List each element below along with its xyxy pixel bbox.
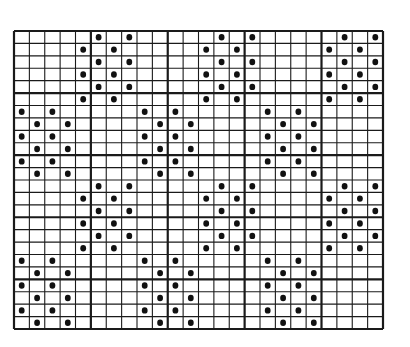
dot-marker bbox=[372, 208, 378, 214]
dot-marker bbox=[249, 208, 255, 214]
dot-marker bbox=[173, 282, 179, 288]
dot-marker bbox=[19, 133, 25, 139]
dot-marker bbox=[126, 84, 132, 90]
dot-marker bbox=[326, 220, 332, 226]
dot-marker bbox=[357, 245, 363, 251]
dot-marker bbox=[311, 171, 317, 177]
dot-marker bbox=[265, 109, 271, 115]
dot-marker bbox=[126, 183, 132, 189]
dot-marker bbox=[372, 233, 378, 239]
dot-marker bbox=[111, 195, 117, 201]
dot-marker bbox=[326, 71, 332, 77]
dot-marker bbox=[311, 320, 317, 326]
dot-marker bbox=[296, 158, 302, 164]
dot-marker bbox=[188, 270, 194, 276]
dot-marker bbox=[19, 158, 25, 164]
dot-marker bbox=[203, 220, 209, 226]
dot-marker bbox=[50, 307, 56, 313]
dot-marker bbox=[50, 109, 56, 115]
dot-marker bbox=[96, 59, 102, 65]
dot-marker bbox=[342, 34, 348, 40]
dot-marker bbox=[326, 245, 332, 251]
dot-marker bbox=[188, 146, 194, 152]
dot-marker bbox=[234, 96, 240, 102]
dot-marker bbox=[296, 282, 302, 288]
dot-marker bbox=[234, 245, 240, 251]
dot-marker bbox=[96, 183, 102, 189]
dot-marker bbox=[126, 59, 132, 65]
dot-marker bbox=[96, 233, 102, 239]
dot-marker bbox=[342, 183, 348, 189]
dot-marker bbox=[311, 295, 317, 301]
dot-marker bbox=[265, 258, 271, 264]
dot-marker bbox=[372, 183, 378, 189]
dot-marker bbox=[34, 146, 40, 152]
dot-marker bbox=[234, 71, 240, 77]
dot-marker bbox=[311, 270, 317, 276]
dot-marker bbox=[265, 307, 271, 313]
dot-marker bbox=[357, 96, 363, 102]
dot-marker bbox=[249, 84, 255, 90]
dot-marker bbox=[19, 282, 25, 288]
dot-marker bbox=[142, 133, 148, 139]
dot-marker bbox=[80, 245, 86, 251]
dot-marker bbox=[296, 258, 302, 264]
dot-marker bbox=[265, 282, 271, 288]
dot-marker bbox=[372, 84, 378, 90]
dot-marker bbox=[126, 34, 132, 40]
dot-marker bbox=[188, 295, 194, 301]
dot-marker bbox=[142, 282, 148, 288]
dot-marker bbox=[280, 146, 286, 152]
dot-marker bbox=[173, 133, 179, 139]
dot-marker bbox=[372, 34, 378, 40]
dot-marker bbox=[249, 183, 255, 189]
dot-marker bbox=[203, 195, 209, 201]
dot-marker bbox=[219, 34, 225, 40]
dot-marker bbox=[111, 96, 117, 102]
dot-marker bbox=[80, 71, 86, 77]
dot-marker bbox=[311, 121, 317, 127]
dot-marker bbox=[188, 121, 194, 127]
dot-marker bbox=[249, 59, 255, 65]
dot-marker bbox=[342, 59, 348, 65]
dot-marker bbox=[111, 220, 117, 226]
dot-marker bbox=[34, 320, 40, 326]
dot-marker bbox=[326, 195, 332, 201]
dot-marker bbox=[19, 258, 25, 264]
dot-marker bbox=[34, 270, 40, 276]
dot-marker bbox=[111, 46, 117, 52]
dot-marker bbox=[96, 84, 102, 90]
dot-marker bbox=[326, 96, 332, 102]
dot-marker bbox=[203, 96, 209, 102]
dot-marker bbox=[80, 195, 86, 201]
dot-marker bbox=[357, 71, 363, 77]
dot-marker bbox=[342, 233, 348, 239]
dot-marker bbox=[19, 307, 25, 313]
dot-marker bbox=[65, 146, 71, 152]
dot-marker bbox=[326, 46, 332, 52]
dot-marker bbox=[234, 195, 240, 201]
dot-marker bbox=[296, 133, 302, 139]
dot-marker bbox=[19, 109, 25, 115]
dot-marker bbox=[80, 220, 86, 226]
dot-marker bbox=[34, 121, 40, 127]
dot-marker bbox=[50, 282, 56, 288]
dot-marker bbox=[219, 84, 225, 90]
dot-marker bbox=[50, 133, 56, 139]
dot-marker bbox=[296, 109, 302, 115]
dot-marker bbox=[219, 59, 225, 65]
dot-marker bbox=[173, 158, 179, 164]
dot-marker bbox=[296, 307, 302, 313]
dot-grid-diagram bbox=[0, 0, 410, 347]
dot-marker bbox=[234, 220, 240, 226]
dot-marker bbox=[96, 208, 102, 214]
dot-marker bbox=[50, 258, 56, 264]
dot-marker bbox=[372, 59, 378, 65]
dot-marker bbox=[157, 146, 163, 152]
grid-canvas bbox=[0, 0, 410, 347]
dot-marker bbox=[203, 46, 209, 52]
dot-marker bbox=[80, 96, 86, 102]
dot-marker bbox=[357, 46, 363, 52]
dot-marker bbox=[65, 295, 71, 301]
dot-marker bbox=[80, 46, 86, 52]
